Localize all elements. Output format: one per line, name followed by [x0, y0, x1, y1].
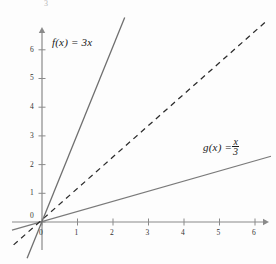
x-tick-label-2: 2: [110, 228, 114, 237]
y-tick-label-1: 1: [30, 188, 34, 197]
y-tick-label-5: 5: [30, 73, 34, 82]
fraction-denominator: 3: [232, 146, 239, 157]
x-tick-label-3: 3: [146, 228, 150, 237]
fraction-numerator: x: [232, 137, 239, 146]
series-label-g: g(x) =x3: [203, 138, 239, 158]
x-tick-label-0: 0: [39, 228, 43, 237]
y-tick-label-4: 4: [30, 102, 34, 111]
graph-figure: 0 1 2 3 4 5 6 0 1 2 3 4 5 6 f(x) = 3x g(…: [0, 0, 276, 264]
series-line-identity: [14, 20, 268, 245]
y-tick-label-6: 6: [30, 45, 34, 54]
y-tick-label-3: 3: [30, 131, 34, 140]
y-tick-label-2: 2: [30, 160, 34, 169]
x-tick-label-6: 6: [252, 228, 256, 237]
series-label-g-text: g(x) =: [203, 141, 232, 153]
x-tick-label-4: 4: [181, 228, 185, 237]
x-axis-arrow-icon: [263, 219, 269, 225]
series-label-f: f(x) = 3x: [52, 36, 92, 48]
top-edge-artifact: 3: [44, 0, 48, 8]
x-tick-label-1: 1: [75, 228, 79, 237]
plot-canvas: [0, 0, 276, 264]
y-axis-arrow-icon: [39, 27, 45, 33]
y-tick-label-0: 0: [30, 211, 34, 220]
series-line-g: [12, 156, 271, 230]
fraction-x-over-3: x3: [232, 137, 239, 157]
x-tick-label-5: 5: [217, 228, 221, 237]
